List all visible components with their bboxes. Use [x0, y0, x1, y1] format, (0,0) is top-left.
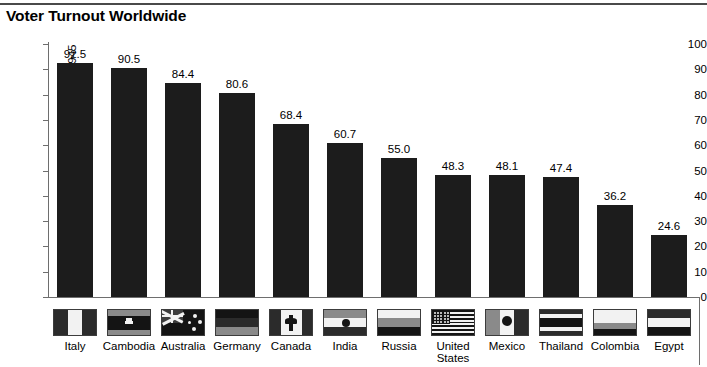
bar-value-label: 36.2: [585, 190, 645, 202]
bar-value-label: 80.6: [207, 78, 267, 90]
bar: [111, 68, 147, 297]
bar: [651, 235, 687, 297]
category-axis-label: Mexico: [480, 340, 534, 352]
flag-colombia-icon: [593, 309, 637, 336]
category-cell: Colombia: [588, 298, 642, 352]
category-cell: Germany: [210, 298, 264, 352]
category-cell: United States: [426, 298, 480, 364]
bar: [489, 175, 525, 297]
flag-russia-icon: [377, 309, 421, 336]
category-cell: Russia: [372, 298, 426, 352]
category-axis-label: Germany: [210, 340, 264, 352]
bar: [219, 93, 255, 297]
bar-value-label: 60.7: [315, 128, 375, 140]
category-axis-label: India: [318, 340, 372, 352]
bar: [273, 124, 309, 297]
category-axis-label: Canada: [264, 340, 318, 352]
bar: [327, 143, 363, 297]
bar-value-label: 48.1: [477, 160, 537, 172]
category-axis-label: Thailand: [534, 340, 588, 352]
bar-value-label: 92.5: [45, 48, 105, 60]
bar: [165, 83, 201, 297]
flag-india-icon: [323, 309, 367, 336]
category-axis: ItalyCambodiaAustraliaGermanyCanadaIndia…: [48, 298, 700, 367]
bar: [435, 175, 471, 297]
chart-figure: Voter Turnout Worldwide 0102030405060708…: [0, 0, 707, 367]
bar-value-label: 47.4: [531, 162, 591, 174]
bar: [381, 158, 417, 297]
flag-mexico-icon: [485, 309, 529, 336]
category-cell: Thailand: [534, 298, 588, 352]
category-cell: Cambodia: [102, 298, 156, 352]
category-cell: Canada: [264, 298, 318, 352]
header-rule: [0, 3, 707, 5]
category-cell: Italy: [48, 298, 102, 352]
flag-italy-icon: [53, 309, 97, 336]
bar-value-label: 55.0: [369, 143, 429, 155]
flag-canada-icon: [269, 309, 313, 336]
bar-value-label: 84.4: [153, 68, 213, 80]
flag-germany-icon: [215, 309, 259, 336]
bar-value-label: 68.4: [261, 109, 321, 121]
category-axis-label: Australia: [156, 340, 210, 352]
bar: [57, 63, 93, 297]
category-axis-label: United States: [426, 340, 480, 364]
category-axis-label: Italy: [48, 340, 102, 352]
category-cell: Australia: [156, 298, 210, 352]
category-axis-label: Egypt: [642, 340, 696, 352]
category-axis-label: Colombia: [588, 340, 642, 352]
category-axis-label: Cambodia: [102, 340, 156, 352]
flag-united-states-icon: [431, 309, 475, 336]
flag-egypt-icon: [647, 309, 691, 336]
category-axis-label: Russia: [372, 340, 426, 352]
flag-thailand-icon: [539, 309, 583, 336]
page-title: Voter Turnout Worldwide: [6, 7, 186, 25]
category-cell: India: [318, 298, 372, 352]
category-cell: Mexico: [480, 298, 534, 352]
flag-cambodia-icon: [107, 309, 151, 336]
flag-australia-icon: [161, 309, 205, 336]
bar-value-label: 48.3: [423, 160, 483, 172]
bar: [543, 177, 579, 297]
bar-value-label: 90.5: [99, 53, 159, 65]
bar: [597, 205, 633, 297]
bar-value-label: 24.6: [639, 220, 699, 232]
plot-area: Turnout at all parliamentary elections s…: [48, 44, 700, 297]
category-cell: Egypt: [642, 298, 696, 352]
